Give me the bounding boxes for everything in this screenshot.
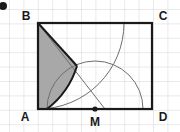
label-M: M: [90, 115, 100, 129]
point-M-dot: [92, 106, 97, 111]
label-A: A: [21, 110, 30, 124]
geometry-figure: A B C D M: [0, 0, 180, 132]
figure-canvas: A B C D M: [0, 0, 180, 132]
label-D: D: [159, 110, 168, 124]
label-C: C: [159, 9, 168, 23]
label-B: B: [22, 9, 31, 23]
